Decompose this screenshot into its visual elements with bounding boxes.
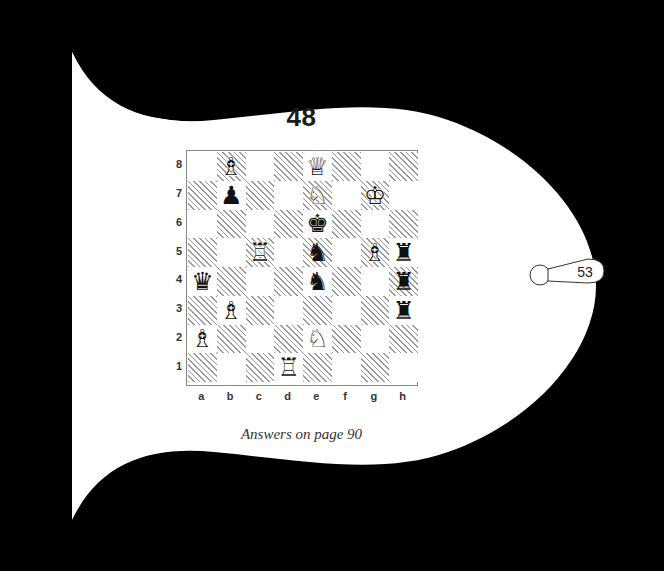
piece-black-knight-e5[interactable]: ♞ — [303, 238, 332, 267]
board-square-d7[interactable] — [274, 181, 303, 210]
board-square-b8[interactable]: ♗ — [217, 152, 246, 181]
piece-white-rook-c5[interactable]: ♖ — [246, 238, 275, 267]
piece-black-rook-h4[interactable]: ♜ — [389, 267, 418, 296]
file-label-e: e — [302, 390, 331, 402]
board-square-g2[interactable] — [361, 325, 390, 354]
piece-white-bishop-b8[interactable]: ♗ — [217, 152, 246, 181]
board-square-h2[interactable] — [389, 325, 418, 354]
board-square-d6[interactable] — [274, 210, 303, 239]
piece-black-knight-e4[interactable]: ♞ — [303, 267, 332, 296]
board-square-c6[interactable] — [246, 210, 275, 239]
board-square-c1[interactable] — [246, 353, 275, 382]
page-content: 48 87654321 ♗♕♟♘♔♚♖♞♗♜♛♞♜♗♜♗♘♖ abcdefgh … — [0, 0, 664, 571]
board-square-f3[interactable] — [332, 296, 361, 325]
board-square-h1[interactable] — [389, 353, 418, 382]
board-square-g7[interactable]: ♔ — [361, 181, 390, 210]
board-square-c7[interactable] — [246, 181, 275, 210]
rank-label-7: 7 — [168, 187, 182, 199]
board-square-e3[interactable] — [303, 296, 332, 325]
file-label-d: d — [273, 390, 302, 402]
board-square-a4[interactable]: ♛ — [188, 267, 217, 296]
board-square-b3[interactable]: ♗ — [217, 296, 246, 325]
board-square-f1[interactable] — [332, 353, 361, 382]
piece-white-bishop-g5[interactable]: ♗ — [361, 238, 390, 267]
piece-white-queen-e8[interactable]: ♕ — [303, 152, 332, 181]
board-square-c3[interactable] — [246, 296, 275, 325]
board-square-f6[interactable] — [332, 210, 361, 239]
piece-black-rook-h3[interactable]: ♜ — [389, 296, 418, 325]
piece-white-king-g7[interactable]: ♔ — [361, 181, 390, 210]
piece-black-queen-a4[interactable]: ♛ — [188, 267, 217, 296]
board-square-f7[interactable] — [332, 181, 361, 210]
chess-diagram: 87654321 ♗♕♟♘♔♚♖♞♗♜♛♞♜♗♜♗♘♖ abcdefgh — [186, 150, 418, 386]
board-square-a2[interactable]: ♗ — [188, 325, 217, 354]
board-square-f8[interactable] — [332, 152, 361, 181]
file-label-h: h — [388, 390, 417, 402]
piece-black-king-e6[interactable]: ♚ — [303, 210, 332, 239]
board-square-g6[interactable] — [361, 210, 390, 239]
piece-white-bishop-b3[interactable]: ♗ — [217, 296, 246, 325]
board-square-g4[interactable] — [361, 267, 390, 296]
rank-label-5: 5 — [168, 245, 182, 257]
board-square-e8[interactable]: ♕ — [303, 152, 332, 181]
board-square-f5[interactable] — [332, 238, 361, 267]
rank-label-6: 6 — [168, 216, 182, 228]
board-square-g5[interactable]: ♗ — [361, 238, 390, 267]
board-square-f4[interactable] — [332, 267, 361, 296]
page-tab-circle — [530, 265, 550, 285]
board-square-h3[interactable]: ♜ — [389, 296, 418, 325]
rank-label-3: 3 — [168, 302, 182, 314]
board-square-d4[interactable] — [274, 267, 303, 296]
board-square-e1[interactable] — [303, 353, 332, 382]
rank-label-8: 8 — [168, 158, 182, 170]
board-square-d2[interactable] — [274, 325, 303, 354]
board-square-b5[interactable] — [217, 238, 246, 267]
board-square-b7[interactable]: ♟ — [217, 181, 246, 210]
board-square-h6[interactable] — [389, 210, 418, 239]
piece-black-rook-h5[interactable]: ♜ — [389, 238, 418, 267]
board-square-c2[interactable] — [246, 325, 275, 354]
board-square-a3[interactable] — [188, 296, 217, 325]
board-square-b6[interactable] — [217, 210, 246, 239]
board-square-d1[interactable]: ♖ — [274, 353, 303, 382]
board-square-e6[interactable]: ♚ — [303, 210, 332, 239]
board-square-b4[interactable] — [217, 267, 246, 296]
board-square-d8[interactable] — [274, 152, 303, 181]
board-square-c5[interactable]: ♖ — [246, 238, 275, 267]
board-square-e2[interactable]: ♘ — [303, 325, 332, 354]
piece-white-bishop-a2[interactable]: ♗ — [188, 325, 217, 354]
piece-white-knight-e7[interactable]: ♘ — [303, 181, 332, 210]
board-square-g8[interactable] — [361, 152, 390, 181]
board-square-g1[interactable] — [361, 353, 390, 382]
page-tab[interactable]: 53 — [528, 255, 608, 295]
board-square-g3[interactable] — [361, 296, 390, 325]
board-square-d3[interactable] — [274, 296, 303, 325]
piece-white-knight-e2[interactable]: ♘ — [303, 325, 332, 354]
board-square-a8[interactable] — [188, 152, 217, 181]
board-square-h5[interactable]: ♜ — [389, 238, 418, 267]
board-square-d5[interactable] — [274, 238, 303, 267]
board-square-a1[interactable] — [188, 353, 217, 382]
board-square-a6[interactable] — [188, 210, 217, 239]
piece-black-pawn-b7[interactable]: ♟ — [217, 181, 246, 210]
rank-label-2: 2 — [168, 331, 182, 343]
board-square-f2[interactable] — [332, 325, 361, 354]
board-square-e4[interactable]: ♞ — [303, 267, 332, 296]
answers-note: Answers on page 90 — [186, 426, 417, 443]
rank-label-4: 4 — [168, 273, 182, 285]
board-square-a7[interactable] — [188, 181, 217, 210]
board-square-h7[interactable] — [389, 181, 418, 210]
board-square-h4[interactable]: ♜ — [389, 267, 418, 296]
board-square-e7[interactable]: ♘ — [303, 181, 332, 210]
piece-white-rook-d1[interactable]: ♖ — [274, 353, 303, 382]
board-square-a5[interactable] — [188, 238, 217, 267]
board-square-c4[interactable] — [246, 267, 275, 296]
board-square-e5[interactable]: ♞ — [303, 238, 332, 267]
board-square-b2[interactable] — [217, 325, 246, 354]
rank-label-1: 1 — [168, 360, 182, 372]
chess-board[interactable]: ♗♕♟♘♔♚♖♞♗♜♛♞♜♗♜♗♘♖ — [186, 150, 418, 386]
board-square-h8[interactable] — [389, 152, 418, 181]
board-square-b1[interactable] — [217, 353, 246, 382]
board-square-c8[interactable] — [246, 152, 275, 181]
puzzle-number: 48 — [186, 102, 417, 133]
